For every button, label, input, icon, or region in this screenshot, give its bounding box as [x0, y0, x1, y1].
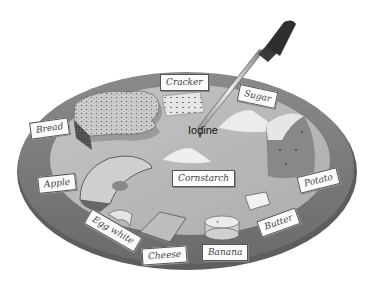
banana-slice: *	[205, 216, 239, 240]
cracker	[162, 92, 204, 116]
label-cornstarch: Cornstarch	[172, 170, 235, 187]
label-banana: Banana	[202, 244, 248, 261]
potato-wedge	[266, 113, 315, 178]
label-cracker: Cracker	[160, 74, 209, 91]
svg-text:*: *	[216, 219, 219, 226]
iodine-test-figure: * Iodine Bread Cracker Sugar Apple Corns…	[0, 0, 376, 288]
iodine-label: Iodine	[188, 124, 218, 136]
plate-illustration: *	[0, 0, 376, 288]
label-cheese: Cheese	[141, 245, 187, 265]
